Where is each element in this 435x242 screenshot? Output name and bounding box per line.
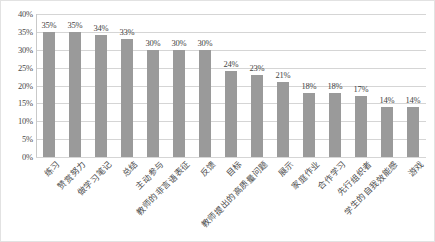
bar-value-label: 18% bbox=[302, 82, 317, 91]
bar-slot: 33% bbox=[114, 14, 140, 157]
bar-slot: 14% bbox=[374, 14, 400, 157]
bar-value-label: 24% bbox=[224, 60, 239, 69]
bar: 30% bbox=[173, 50, 185, 157]
x-axis-category-label: 反馈 bbox=[198, 159, 218, 179]
bar: 30% bbox=[147, 50, 159, 157]
bar: 18% bbox=[329, 93, 341, 157]
bar-slot: 24% bbox=[218, 14, 244, 157]
y-axis-tick-label: 5% bbox=[3, 135, 33, 143]
y-axis-tick-label: 35% bbox=[3, 28, 33, 36]
bar-value-label: 34% bbox=[94, 24, 109, 33]
bar: 14% bbox=[381, 107, 393, 157]
x-axis-category-label: 总结 bbox=[120, 159, 140, 179]
bar-slot: 21% bbox=[270, 14, 296, 157]
y-axis-tick-label: 10% bbox=[3, 117, 33, 125]
bar: 24% bbox=[225, 71, 237, 157]
bar-value-label: 14% bbox=[406, 96, 421, 105]
bar-value-label: 30% bbox=[198, 39, 213, 48]
gridline bbox=[36, 157, 426, 158]
bar-slot: 30% bbox=[192, 14, 218, 157]
bar-value-label: 17% bbox=[354, 85, 369, 94]
bar-value-label: 30% bbox=[146, 39, 161, 48]
bar-slot: 35% bbox=[62, 14, 88, 157]
bar: 35% bbox=[43, 32, 55, 157]
bar-slot: 14% bbox=[400, 14, 426, 157]
y-axis: 40%35%30%25%20%15%10%5%0% bbox=[3, 14, 33, 157]
bar-value-label: 18% bbox=[328, 82, 343, 91]
x-axis-category-label: 展示 bbox=[276, 159, 296, 179]
y-axis-tick-label: 20% bbox=[3, 82, 33, 90]
bar: 35% bbox=[69, 32, 81, 157]
bar-value-label: 30% bbox=[172, 39, 187, 48]
bar-slot: 35% bbox=[36, 14, 62, 157]
bar: 14% bbox=[407, 107, 419, 157]
bar-slot: 23% bbox=[244, 14, 270, 157]
bar: 34% bbox=[95, 35, 107, 157]
bar-series: 35%35%34%33%30%30%30%24%23%21%18%18%17%1… bbox=[36, 14, 426, 157]
y-axis-tick-label: 40% bbox=[3, 10, 33, 18]
x-axis-category-label: 目标 bbox=[224, 159, 244, 179]
bar-value-label: 14% bbox=[380, 96, 395, 105]
bar-slot: 18% bbox=[296, 14, 322, 157]
x-axis-category-label: 游戏 bbox=[406, 159, 426, 179]
bar: 30% bbox=[199, 50, 211, 157]
x-axis-category-label: 练习 bbox=[42, 159, 62, 179]
bar-slot: 30% bbox=[140, 14, 166, 157]
bar-value-label: 33% bbox=[120, 28, 135, 37]
plot-wrapper: 40%35%30%25%20%15%10%5%0% 35%35%34%33%30… bbox=[1, 1, 435, 242]
bar-value-label: 21% bbox=[276, 71, 291, 80]
bar-slot: 30% bbox=[166, 14, 192, 157]
bar-slot: 17% bbox=[348, 14, 374, 157]
bar-value-label: 23% bbox=[250, 64, 265, 73]
bar: 33% bbox=[121, 39, 133, 157]
y-axis-tick-label: 0% bbox=[3, 153, 33, 161]
bar: 17% bbox=[355, 96, 367, 157]
bar-slot: 18% bbox=[322, 14, 348, 157]
plot-area: 35%35%34%33%30%30%30%24%23%21%18%18%17%1… bbox=[36, 14, 426, 157]
y-axis-tick-label: 30% bbox=[3, 46, 33, 54]
y-axis-tick-label: 25% bbox=[3, 64, 33, 72]
bar: 18% bbox=[303, 93, 315, 157]
bar-chart: 40%35%30%25%20%15%10%5%0% 35%35%34%33%30… bbox=[0, 0, 435, 242]
bar-slot: 34% bbox=[88, 14, 114, 157]
bar: 21% bbox=[277, 82, 289, 157]
x-axis-category-labels: 练习赞赏努力做学习笔记总结主动参与教师的非言语表征反馈目标教师提出的高质量问题展… bbox=[36, 159, 426, 242]
bar-value-label: 35% bbox=[42, 21, 57, 30]
y-axis-tick-label: 15% bbox=[3, 99, 33, 107]
bar: 23% bbox=[251, 75, 263, 157]
bar-value-label: 35% bbox=[68, 21, 83, 30]
